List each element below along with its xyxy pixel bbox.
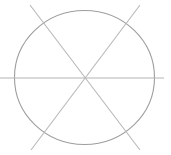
line-drawing-figure — [0, 0, 171, 155]
figure-canvas — [0, 0, 171, 155]
